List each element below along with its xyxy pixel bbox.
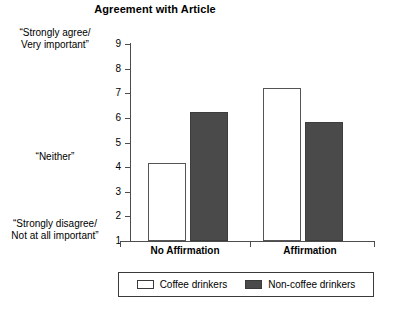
legend-label: Coffee drinkers <box>160 279 228 290</box>
y-axis-tick-label: 3 <box>101 185 121 198</box>
y-axis-tick-label: 5 <box>101 136 121 149</box>
y-axis-tick-mark <box>125 143 130 144</box>
y-axis-anchor-top-line2: Very important” <box>0 39 110 51</box>
y-axis-tick-label: 1 <box>101 234 121 247</box>
y-axis-tick-label: 2 <box>101 209 121 222</box>
y-axis-tick-mark <box>125 118 130 119</box>
y-axis-tick-mark <box>125 216 130 217</box>
y-axis-tick-label: 4 <box>101 160 121 173</box>
y-axis-tick-label: 6 <box>101 111 121 124</box>
y-axis-tick-mark <box>125 93 130 94</box>
x-axis-label-no-affirmation: No Affirmation <box>120 245 250 256</box>
legend-swatch-icon <box>137 280 154 289</box>
bar-affirmation-non-coffee-drinkers <box>305 122 343 241</box>
x-axis-label-affirmation: Affirmation <box>245 245 375 256</box>
legend: Coffee drinkers Non-coffee drinkers <box>118 272 374 297</box>
bar-no-affirmation-coffee-drinkers <box>148 163 186 241</box>
y-axis-anchor-bottom: “Strongly disagree/ Not at all important… <box>0 218 110 242</box>
x-axis-line <box>120 241 375 242</box>
legend-swatch-icon <box>245 280 262 289</box>
chart-title: Agreement with Article <box>0 3 310 15</box>
y-axis-tick-mark <box>125 192 130 193</box>
y-axis-tick-mark <box>125 69 130 70</box>
y-axis-tick-mark <box>125 241 130 242</box>
y-axis-anchor-bottom-line1: “Strongly disagree/ <box>0 218 110 230</box>
y-axis-anchor-bottom-line2: Not at all important” <box>0 230 110 242</box>
y-axis-anchor-middle: “Neither” <box>0 151 110 163</box>
y-axis-tick-mark <box>125 44 130 45</box>
bar-affirmation-coffee-drinkers <box>263 88 301 241</box>
y-axis-tick-label: 7 <box>101 86 121 99</box>
bar-no-affirmation-non-coffee-drinkers <box>190 112 228 241</box>
plot-area: 9 8 7 6 5 4 3 2 <box>130 44 375 241</box>
y-axis-tick-label: 9 <box>101 37 121 50</box>
y-axis-anchor-top-line1: “Strongly agree/ <box>0 27 110 39</box>
y-axis-anchor-top: “Strongly agree/ Very important” <box>0 27 110 51</box>
legend-item-coffee-drinkers: Coffee drinkers <box>137 279 228 290</box>
legend-label: Non-coffee drinkers <box>268 279 355 290</box>
bar-chart: Agreement with Article “Strongly agree/ … <box>0 0 395 310</box>
y-axis-tick-mark <box>125 167 130 168</box>
legend-item-non-coffee-drinkers: Non-coffee drinkers <box>245 279 355 290</box>
y-axis-tick-label: 8 <box>101 62 121 75</box>
